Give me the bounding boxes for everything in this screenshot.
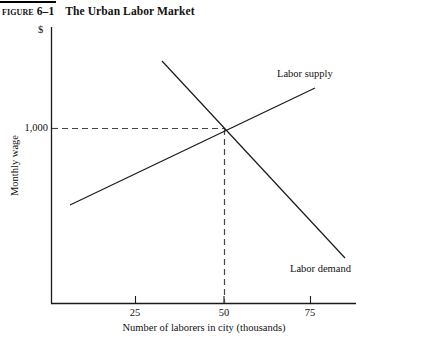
labor-supply-curve <box>70 88 315 205</box>
labor-demand-label: Labor demand <box>290 263 351 274</box>
figure-container: Figure 6–1The Urban Labor Market $ 1,000… <box>0 0 422 342</box>
labor-demand-curve <box>162 61 345 258</box>
x-tick-label-50: 50 <box>209 307 239 318</box>
x-tick-label-75: 75 <box>295 307 325 318</box>
y-axis-unit-label: $ <box>38 24 43 35</box>
y-tick-label-1000: 1,000 <box>0 122 48 133</box>
chart-plot-area: $ 1,000 Monthly wage 25 50 75 Number of … <box>0 0 422 342</box>
labor-supply-label: Labor supply <box>277 68 333 79</box>
y-axis-title: Monthly wage <box>9 123 20 209</box>
chart-svg <box>0 0 422 342</box>
x-tick-label-25: 25 <box>120 307 150 318</box>
x-axis-title: Number of laborers in city (thousands) <box>51 322 357 333</box>
